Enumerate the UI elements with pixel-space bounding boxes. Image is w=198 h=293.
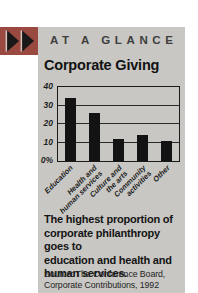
bar-other <box>161 141 172 161</box>
right-triangles-glyph <box>0 27 38 55</box>
at-a-glance-page: AT A GLANCE Corporate Giving 403020100% … <box>0 0 198 293</box>
bar-education <box>65 98 76 161</box>
y-axis-tick: 40 <box>38 81 53 91</box>
y-axis-tick: 0% <box>38 155 53 165</box>
source-text: Source: The Conference Board, Corporate … <box>44 269 182 290</box>
bar-culture-and <box>113 139 124 161</box>
at-a-glance-card: AT A GLANCE Corporate Giving 403020100% … <box>38 27 185 293</box>
y-axis-tick: 10 <box>38 137 53 147</box>
double-arrow-icon <box>0 27 38 55</box>
y-axis-tick: 20 <box>38 118 53 128</box>
bar-community <box>137 135 148 161</box>
chart-plot-area <box>57 86 180 162</box>
bar-health-and <box>89 113 100 161</box>
gridline <box>58 105 179 106</box>
y-axis-tick: 30 <box>38 100 53 110</box>
bar-chart: 403020100% EducationHealth and human ser… <box>38 27 185 237</box>
gridline <box>58 123 179 124</box>
